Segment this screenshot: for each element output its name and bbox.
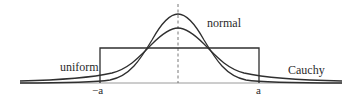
diagram-canvas: uniform normal Cauchy −a a: [0, 0, 356, 96]
uniform-curve: [100, 48, 259, 83]
uniform-label: uniform: [60, 60, 99, 74]
normal-label: normal: [207, 16, 242, 30]
cauchy-label: Cauchy: [288, 63, 325, 77]
tick-label-minus-a: −a: [92, 84, 103, 96]
distribution-diagram: uniform normal Cauchy −a a: [0, 0, 356, 96]
tick-label-a: a: [256, 84, 261, 96]
